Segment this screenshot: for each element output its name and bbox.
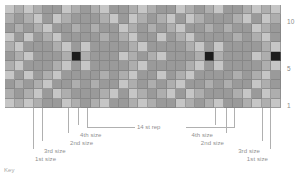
chart-cell: [224, 5, 234, 14]
repeat-bracket-line-right: [186, 127, 235, 128]
chart-cell: [176, 71, 186, 80]
chart-cell: [214, 52, 224, 61]
chart-cell: [62, 42, 72, 51]
chart-cell: [214, 42, 224, 51]
chart-cell: [262, 24, 272, 33]
chart-cell: [252, 42, 262, 51]
chart-cell: [233, 5, 243, 14]
chart-cell: [167, 52, 177, 61]
chart-cell: [148, 61, 158, 70]
chart-cell: [262, 33, 272, 42]
repeat-label: 14 st rep: [137, 124, 160, 131]
chart-cell: [91, 52, 101, 61]
chart-cell: [5, 52, 15, 61]
chart-cell: [167, 24, 177, 33]
chart-cell: [176, 5, 186, 14]
chart-cell: [243, 52, 253, 61]
chart-cell: [15, 5, 25, 14]
chart-cell: [62, 24, 72, 33]
chart-cell: [43, 42, 53, 51]
chart-cell: [24, 5, 34, 14]
chart-cell: [243, 80, 253, 89]
chart-cell: [53, 5, 63, 14]
chart-cell: [119, 24, 129, 33]
chart-cell: [34, 80, 44, 89]
chart-cell: [110, 5, 120, 14]
chart-cell: [195, 33, 205, 42]
chart-cell: [34, 61, 44, 70]
chart-cell: [252, 14, 262, 23]
chart-cell: [24, 80, 34, 89]
chart-cell: [148, 52, 158, 61]
key-label: Key: [4, 167, 15, 174]
chart-cell: [110, 14, 120, 23]
chart-cell: [271, 99, 281, 108]
chart-cell: [195, 89, 205, 98]
chart-cell: [129, 71, 139, 80]
chart-cell: [53, 24, 63, 33]
chart-cell: [224, 24, 234, 33]
chart-cell: [100, 80, 110, 89]
chart-cell: [72, 61, 82, 70]
chart-cell: [157, 24, 167, 33]
chart-cell: [24, 24, 34, 33]
chart-cell: [91, 89, 101, 98]
chart-cell: [148, 99, 158, 108]
chart-cell: [72, 89, 82, 98]
chart-cell: [72, 24, 82, 33]
chart-cell: [34, 99, 44, 108]
chart-cell: [72, 71, 82, 80]
chart-cell: [24, 89, 34, 98]
chart-cell: [233, 99, 243, 108]
chart-cell: [148, 14, 158, 23]
chart-cell: [176, 33, 186, 42]
chart-cell: [5, 42, 15, 51]
chart-cell: [91, 61, 101, 70]
chart-grid-container: [5, 5, 281, 108]
leader-line-right-3rd-size: [262, 108, 263, 141]
chart-cell: [81, 24, 91, 33]
chart-cell: [91, 99, 101, 108]
chart-cell: [53, 89, 63, 98]
chart-cell: [271, 71, 281, 80]
chart-cell: [205, 14, 215, 23]
chart-cell: [15, 42, 25, 51]
chart-cell: [148, 71, 158, 80]
chart-cell: [195, 71, 205, 80]
chart-cell: [176, 61, 186, 70]
chart-cell: [186, 52, 196, 61]
leader-line-left-3rd-size: [42, 108, 43, 141]
chart-cell: [34, 52, 44, 61]
chart-cell: [53, 80, 63, 89]
chart-cell: [24, 61, 34, 70]
chart-cell: [110, 24, 120, 33]
chart-cell: [243, 42, 253, 51]
chart-cell: [34, 33, 44, 42]
chart-cell: [176, 99, 186, 108]
chart-cell: [157, 80, 167, 89]
chart-cell: [186, 71, 196, 80]
chart-cell: [271, 61, 281, 70]
chart-cell: [262, 14, 272, 23]
chart-cell: [243, 71, 253, 80]
chart-cell: [205, 24, 215, 33]
chart-cell: [15, 24, 25, 33]
chart-cell: [167, 89, 177, 98]
chart-cell: [81, 14, 91, 23]
chart-cell: [129, 99, 139, 108]
chart-cell: [167, 99, 177, 108]
chart-cell: [195, 5, 205, 14]
chart-cell: [243, 61, 253, 70]
label-left-1st-size: 1st size: [35, 156, 56, 163]
chart-cell: [167, 80, 177, 89]
chart-cell: [271, 52, 281, 61]
chart-cell: [205, 99, 215, 108]
chart-cell: [138, 5, 148, 14]
chart-cell: [43, 80, 53, 89]
chart-cell: [252, 99, 262, 108]
chart-cell: [195, 24, 205, 33]
chart-cell: [62, 14, 72, 23]
chart-cell: [15, 14, 25, 23]
chart-cell: [157, 33, 167, 42]
chart-cell: [262, 99, 272, 108]
